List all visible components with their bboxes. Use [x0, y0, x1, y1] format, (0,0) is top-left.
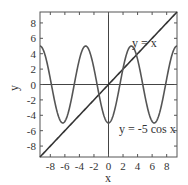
x-tick-label: 2	[120, 160, 126, 172]
y-tick-label: -8	[27, 140, 37, 152]
y-tick-label: 0	[31, 79, 37, 91]
chart: -8-6-4-202468-8-6-4-202468 y x y = x y =…	[0, 0, 188, 185]
y-tick-label: -2	[27, 94, 36, 106]
x-tick-label: 6	[149, 160, 155, 172]
x-tick-label: -2	[89, 160, 98, 172]
y-tick-label: -6	[27, 125, 37, 137]
y-tick-label: -4	[27, 109, 37, 121]
y-tick-label: 6	[31, 32, 37, 44]
x-tick-label: -4	[75, 160, 85, 172]
x-tick-label: 8	[164, 160, 170, 172]
x-tick-label: -8	[46, 160, 56, 172]
x-axis-label: x	[105, 171, 111, 185]
y-tick-label: 4	[31, 48, 37, 60]
y-axis-label: y	[7, 85, 21, 91]
y-tick-label: 8	[31, 17, 37, 29]
y-tick-label: 2	[31, 63, 37, 75]
annotation-y-equals-neg5cosx: y = -5 cos x	[119, 122, 176, 136]
x-tick-label: -6	[60, 160, 70, 172]
x-tick-label: 4	[135, 160, 141, 172]
annotation-y-equals-x: y = x	[132, 36, 157, 50]
